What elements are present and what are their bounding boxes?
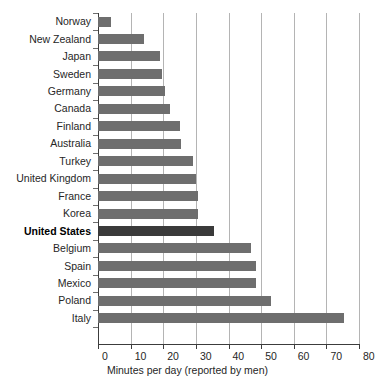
y-axis-tick [93,257,98,258]
x-axis-tick-label: 20 [167,350,179,362]
bar [98,51,160,61]
bar [98,296,271,306]
bar-row [98,83,359,100]
bar [98,191,198,201]
bar-row [98,257,359,274]
y-axis-label: France [0,191,91,202]
bar [98,156,193,166]
x-axis-tick-label: 10 [135,350,147,362]
y-axis-label: Japan [0,51,91,62]
y-axis-tick [93,118,98,119]
y-axis-tick [93,240,98,241]
y-axis-tick [93,30,98,31]
y-axis-tick [93,188,98,189]
x-axis-tick [196,344,197,349]
y-axis-label: Belgium [0,243,91,254]
bar-row [98,188,359,205]
y-axis-label: Finland [0,121,91,132]
bar-row [98,275,359,292]
y-axis-tick [93,135,98,136]
bar [98,139,181,149]
bar-row [98,222,359,239]
bar-row [98,135,359,152]
bar-row [98,13,359,30]
y-axis-label: New Zealand [0,34,91,45]
bar [98,209,198,219]
bar-row [98,292,359,309]
y-axis-tick [93,222,98,223]
x-axis-tick [326,344,327,349]
y-axis-label: Korea [0,208,91,219]
x-axis-tick-label: 80 [363,350,375,362]
y-axis-label: Poland [0,295,91,306]
bar [98,121,180,131]
y-axis-tick [93,327,98,328]
x-axis-tick-label: 30 [200,350,212,362]
x-axis-tick [131,344,132,349]
bar [98,243,251,253]
gridline [359,13,360,344]
x-axis-tick-label: 50 [265,350,277,362]
x-axis-tick-label: 40 [233,350,245,362]
y-axis-label: Australia [0,138,91,149]
bar [98,69,162,79]
y-axis-tick [93,292,98,293]
y-axis-tick [93,13,98,14]
bar [98,86,165,96]
y-axis-tick [93,170,98,171]
bar-rows [98,13,359,344]
x-axis-tick [359,344,360,349]
bar-row [98,65,359,82]
x-axis-tick-label: 70 [330,350,342,362]
bar-row [98,118,359,135]
y-axis-tick [93,205,98,206]
y-axis-label: United States [0,226,91,237]
bar-row [98,205,359,222]
bar [98,278,256,288]
bar-row [98,170,359,187]
bar [98,34,144,44]
bar [98,313,344,323]
y-axis-label: Sweden [0,69,91,80]
bar-row [98,30,359,47]
bar [98,104,170,114]
x-axis-tick [163,344,164,349]
y-axis-tick [93,310,98,311]
x-axis-tick [98,344,99,349]
x-axis-tick-label: 60 [298,350,310,362]
bar-row [98,310,359,327]
bar-row [98,100,359,117]
bar-highlight [98,226,214,236]
x-axis-tick [261,344,262,349]
bar-chart: NorwayNew ZealandJapanSwedenGermanyCanad… [0,0,375,385]
bar [98,174,196,184]
y-axis-label: Spain [0,261,91,272]
y-axis-tick [93,153,98,154]
bar-row [98,153,359,170]
y-axis-label: Norway [0,16,91,27]
y-axis-label: Italy [0,313,91,324]
y-axis-label: Mexico [0,278,91,289]
x-axis-tick [294,344,295,349]
y-axis-label: Canada [0,103,91,114]
plot-area [98,13,359,344]
bar-row [98,48,359,65]
bar [98,17,111,27]
x-axis-title: Minutes per day (reported by men) [0,364,375,377]
y-axis-tick [93,65,98,66]
x-axis-tick-label: 0 [102,350,108,362]
bar-row [98,240,359,257]
y-axis-label: United Kingdom [0,173,91,184]
y-axis-tick [93,83,98,84]
y-axis-tick [93,48,98,49]
x-axis-tick [229,344,230,349]
y-axis-tick [93,275,98,276]
bar [98,261,256,271]
y-axis-tick [93,100,98,101]
y-axis-label: Germany [0,86,91,97]
y-axis-label: Turkey [0,156,91,167]
